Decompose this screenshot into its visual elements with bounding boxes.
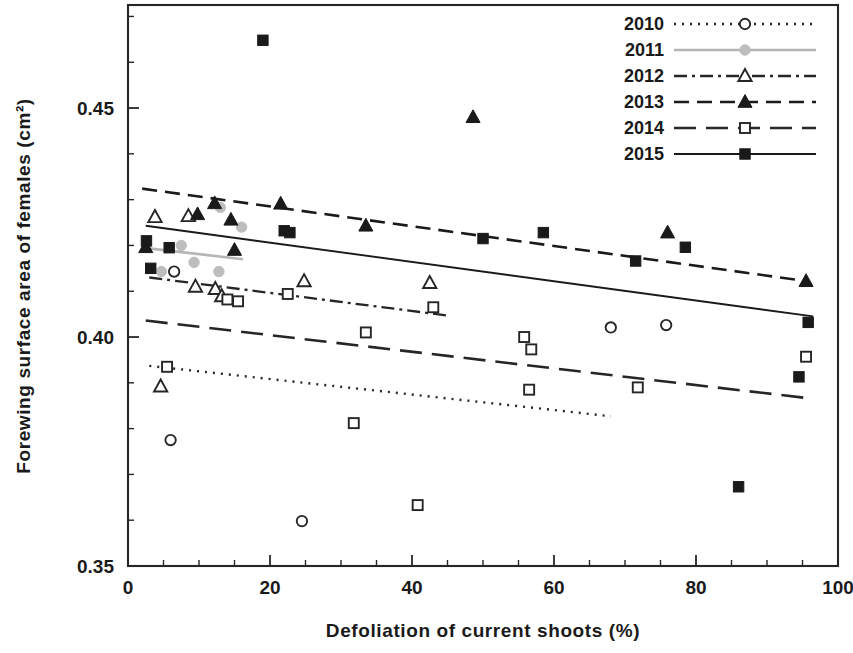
data-point <box>297 516 307 526</box>
data-point <box>283 289 293 299</box>
data-point <box>606 322 616 332</box>
data-point <box>222 294 232 304</box>
data-point <box>428 302 438 312</box>
data-point <box>169 266 179 276</box>
legend-label-2014: 2014 <box>624 118 664 138</box>
data-point <box>733 482 743 492</box>
data-point <box>236 222 246 232</box>
data-point <box>526 344 536 354</box>
data-point <box>478 233 488 243</box>
data-point <box>285 227 295 237</box>
data-point <box>630 256 640 266</box>
legend-marker <box>740 19 750 29</box>
legend-label-2010: 2010 <box>624 14 664 34</box>
data-point <box>233 296 243 306</box>
scatter-plot: 020406080100 0.350.400.45 Defoliation of… <box>0 0 853 653</box>
legend-marker-2014 <box>740 123 750 133</box>
chart-figure: 020406080100 0.350.400.45 Defoliation of… <box>0 0 853 653</box>
data-point <box>146 263 156 273</box>
data-point <box>803 317 813 327</box>
legend-marker-2010 <box>740 19 750 29</box>
data-point <box>162 362 172 372</box>
legend-marker-2011 <box>740 45 750 55</box>
x-tick-label: 60 <box>543 577 564 598</box>
data-point <box>349 418 359 428</box>
legend-marker-2015 <box>740 149 750 159</box>
data-point <box>361 327 371 337</box>
data-point <box>176 240 186 250</box>
data-point <box>258 35 268 45</box>
x-tick-label: 100 <box>822 577 853 598</box>
data-point <box>164 243 174 253</box>
data-point <box>661 320 671 330</box>
data-point <box>680 242 690 252</box>
x-axis-title: Defoliation of current shoots (%) <box>326 620 640 641</box>
x-tick-label: 20 <box>259 577 280 598</box>
legend-label-2012: 2012 <box>624 66 664 86</box>
data-point <box>538 227 548 237</box>
legend-label-2013: 2013 <box>624 92 664 112</box>
data-point <box>524 385 534 395</box>
data-point <box>141 236 151 246</box>
y-tick-label: 0.35 <box>77 556 114 577</box>
data-point <box>156 266 166 276</box>
legend-marker <box>740 149 750 159</box>
data-point <box>801 352 811 362</box>
data-point <box>794 372 804 382</box>
x-tick-label: 0 <box>123 577 134 598</box>
data-point <box>413 500 423 510</box>
x-tick-label: 40 <box>401 577 422 598</box>
y-tick-label: 0.45 <box>77 98 114 119</box>
y-axis-title: Forewing surface area of females (cm²) <box>13 98 34 473</box>
y-tick-label: 0.40 <box>77 327 114 348</box>
legend-marker <box>740 45 750 55</box>
legend-label-2015: 2015 <box>624 144 664 164</box>
data-point <box>633 382 643 392</box>
data-point <box>519 332 529 342</box>
data-point <box>214 266 224 276</box>
data-point <box>189 257 199 267</box>
x-tick-label: 80 <box>685 577 706 598</box>
data-point <box>165 435 175 445</box>
legend-marker <box>740 123 750 133</box>
legend-label-2011: 2011 <box>625 40 664 60</box>
